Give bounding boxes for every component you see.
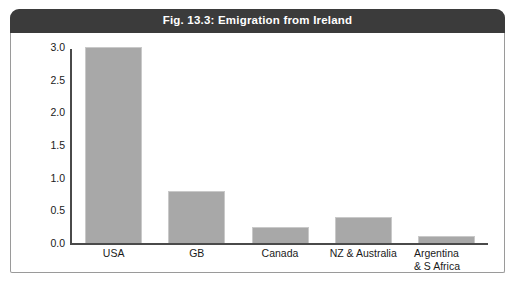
bar-slot [335, 47, 392, 243]
x-tick-label-line: Canada [238, 247, 321, 260]
y-axis-tick-labels: 0.00.51.01.52.02.53.0 [29, 33, 65, 271]
x-axis-line [70, 243, 488, 245]
x-tick-label: Canada [238, 247, 321, 260]
y-tick-label: 0.0 [29, 238, 65, 249]
x-axis-tick-labels: USAGBCanadaNZ & AustraliaArgentina& S Af… [72, 247, 488, 283]
y-tick-label: 1.5 [29, 140, 65, 151]
figure-card: Fig. 13.3: Emigration from Ireland numbe… [10, 9, 505, 273]
bar-slot [85, 47, 142, 243]
bar-slot [418, 47, 475, 243]
figure-title-bar: Fig. 13.3: Emigration from Ireland [10, 9, 505, 33]
x-tick-label-line: & S Africa [414, 260, 515, 273]
y-tick-label: 2.5 [29, 74, 65, 85]
bar[interactable] [85, 47, 142, 243]
bar-slot [252, 47, 309, 243]
page-title: Fig. 13.3: Emigration from Ireland [163, 15, 353, 27]
bar-series [72, 47, 488, 243]
bar[interactable] [335, 217, 392, 243]
x-tick-label: GB [155, 247, 238, 260]
bar[interactable] [252, 227, 309, 243]
x-tick-label-line: NZ & Australia [322, 247, 405, 260]
y-tick-label: 2.0 [29, 107, 65, 118]
y-tick-label: 3.0 [29, 42, 65, 53]
y-tick-label: 0.5 [29, 205, 65, 216]
x-tick-label-line: USA [72, 247, 155, 260]
x-tick-label: Argentina& S Africa [414, 247, 515, 273]
x-tick-label: NZ & Australia [322, 247, 405, 260]
x-tick-label-line: GB [155, 247, 238, 260]
x-tick-label: USA [72, 247, 155, 260]
bar-slot [168, 47, 225, 243]
x-tick-label-line: Argentina [414, 247, 515, 260]
y-tick-label: 1.0 [29, 172, 65, 183]
bar[interactable] [418, 236, 475, 243]
chart-plot-region: numbers in 000000s 0.00.51.01.52.02.53.0… [11, 33, 504, 271]
bar[interactable] [168, 191, 225, 243]
